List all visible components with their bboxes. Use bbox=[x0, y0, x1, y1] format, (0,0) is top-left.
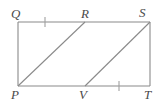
vertex-label-r: R bbox=[81, 7, 89, 20]
vertex-label-t: T bbox=[144, 88, 151, 101]
vertex-label-s: S bbox=[139, 6, 146, 19]
vertex-label-q: Q bbox=[11, 7, 20, 20]
diagonal-VS-line bbox=[85, 22, 150, 86]
geometry-figure: Q R S P V T bbox=[0, 0, 163, 107]
diagonal-PR-line bbox=[18, 22, 85, 86]
vertex-label-p: P bbox=[11, 88, 19, 101]
vertex-label-v: V bbox=[79, 88, 87, 101]
